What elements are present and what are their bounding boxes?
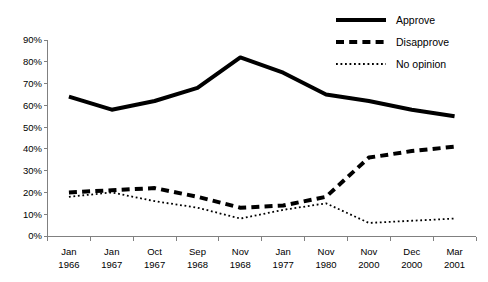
y-axis-tick-label: 70%	[23, 78, 43, 89]
x-axis-tick-label: Sep1968	[187, 246, 208, 270]
x-axis-tick-year: 2000	[401, 259, 422, 270]
x-axis-tick-year: 1966	[58, 259, 79, 270]
x-axis-tick-label: Dec2000	[401, 246, 422, 270]
x-axis-tick-label: Nov2000	[358, 246, 379, 270]
y-axis-tick-labels: 0%10%20%30%40%50%60%70%80%90%	[23, 34, 43, 241]
x-axis-tick-year: 1977	[273, 259, 294, 270]
x-axis-tick-month: Nov	[318, 246, 335, 257]
x-axis-tick-month: Dec	[403, 246, 420, 257]
y-axis-tick-label: 30%	[23, 165, 43, 176]
series-line-no-opinion	[69, 192, 455, 222]
legend-item-approve: Approve	[336, 14, 435, 26]
x-axis-tick-month: Jan	[61, 246, 76, 257]
x-axis-tick-month: Mar	[446, 246, 462, 257]
x-axis-tick-year: 1968	[187, 259, 208, 270]
x-axis-tick-month: Sep	[189, 246, 206, 257]
y-axis-tick-label: 80%	[23, 56, 43, 67]
legend-label: Approve	[396, 14, 435, 26]
y-axis-tick-marks	[44, 40, 48, 236]
x-axis-tick-label: Oct1967	[144, 246, 165, 270]
chart-container: 0%10%20%30%40%50%60%70%80%90% Jan1966Jan…	[0, 0, 488, 282]
x-axis-tick-label: Jan1977	[273, 246, 294, 270]
x-axis-tick-labels: Jan1966Jan1967Oct1967Sep1968Nov1968Jan19…	[58, 246, 465, 270]
line-chart: 0%10%20%30%40%50%60%70%80%90% Jan1966Jan…	[0, 0, 488, 282]
x-axis-tick-label: Jan1967	[101, 246, 122, 270]
y-axis-tick-label: 0%	[28, 230, 42, 241]
series-line-disapprove	[69, 147, 455, 208]
y-axis-tick-label: 90%	[23, 34, 43, 45]
chart-legend: ApproveDisapproveNo opinion	[336, 14, 449, 70]
x-axis-tick-year: 2000	[358, 259, 379, 270]
x-axis-tick-label: Mar2001	[444, 246, 465, 270]
legend-item-disapprove: Disapprove	[336, 36, 449, 48]
x-axis-tick-label: Nov1968	[230, 246, 251, 270]
y-axis-tick-label: 60%	[23, 100, 43, 111]
legend-item-no-opinion: No opinion	[336, 58, 446, 70]
x-axis-tick-label: Nov1980	[315, 246, 336, 270]
x-axis-tick-year: 2001	[444, 259, 465, 270]
y-axis-tick-label: 10%	[23, 209, 43, 220]
legend-label: Disapprove	[396, 36, 449, 48]
x-axis-tick-month: Nov	[232, 246, 249, 257]
x-axis-tick-label: Jan1966	[58, 246, 79, 270]
x-axis-tick-year: 1980	[315, 259, 336, 270]
x-axis-tick-month: Jan	[276, 246, 291, 257]
y-axis-tick-label: 40%	[23, 143, 43, 154]
x-axis-tick-year: 1967	[144, 259, 165, 270]
x-axis-tick-year: 1967	[101, 259, 122, 270]
y-axis-tick-label: 20%	[23, 187, 43, 198]
x-axis-tick-year: 1968	[230, 259, 251, 270]
y-axis-tick-label: 50%	[23, 122, 43, 133]
x-axis-tick-marks	[48, 237, 477, 242]
data-series-group	[69, 57, 455, 223]
legend-label: No opinion	[396, 58, 446, 70]
x-axis-tick-month: Nov	[360, 246, 377, 257]
x-axis-tick-month: Jan	[104, 246, 119, 257]
x-axis-tick-month: Oct	[147, 246, 162, 257]
